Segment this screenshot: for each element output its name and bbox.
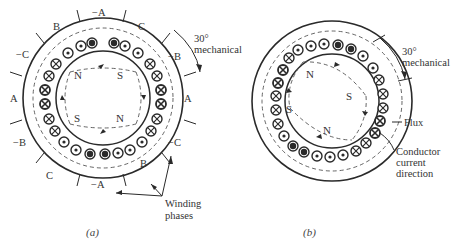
pole-label: S: [286, 103, 292, 115]
phase-label: −C: [16, 49, 29, 60]
arrow-icon: [401, 71, 407, 79]
pole-label: N: [323, 124, 331, 136]
caption-a: (a): [86, 226, 99, 239]
flux-ring-outer: [33, 28, 173, 168]
phase-dividers: [10, 10, 196, 186]
angle-label: mechanical: [402, 57, 450, 68]
phase-label: −B: [168, 51, 181, 62]
phase-label: C: [138, 21, 145, 32]
angle-label: 30°: [194, 33, 209, 44]
stator-winding-figure: N S S N −A C −B A −C B −A C −B A −C: [0, 0, 462, 241]
conductor-ring: [271, 39, 388, 162]
phase-label: B: [140, 158, 147, 169]
winding-label: Winding: [165, 198, 202, 209]
conductor-label: Conductor: [396, 146, 441, 157]
arrow-icon: [196, 64, 202, 72]
caption-b: (b): [303, 226, 316, 239]
winding-label: phases: [165, 210, 193, 221]
flux-ring-outer: [262, 31, 402, 171]
angle-label: mechanical: [194, 44, 242, 55]
pole-label: S: [346, 90, 352, 102]
phase-label: −C: [168, 137, 181, 148]
angle-label: 30°: [402, 46, 417, 57]
rotor-circle: [285, 54, 379, 148]
diagram-a: N S S N −A C −B A −C B −A C −B A −C: [10, 7, 242, 239]
phase-label: A: [10, 93, 18, 104]
pole-label: S: [117, 69, 123, 81]
diagram-b: N S S N 30° mechanical Flux Conductor cu…: [252, 21, 450, 239]
conductor-ring: [40, 38, 166, 159]
pole-label: S: [74, 112, 80, 124]
phase-label: −A: [91, 179, 105, 190]
phase-label: −A: [92, 7, 106, 18]
conductor-label: current: [396, 157, 426, 168]
pole-label: N: [306, 68, 314, 80]
flux-label: Flux: [404, 117, 424, 128]
pole-label: N: [74, 69, 82, 81]
conductor-label: direction: [396, 168, 434, 179]
phase-label: B: [53, 21, 60, 32]
conductor-leader: [380, 133, 394, 150]
phase-label: C: [46, 170, 53, 181]
flux-arrows-a: [60, 64, 146, 134]
phase-label: −B: [13, 137, 26, 148]
phase-label: A: [184, 93, 192, 104]
pole-label: N: [116, 112, 124, 124]
